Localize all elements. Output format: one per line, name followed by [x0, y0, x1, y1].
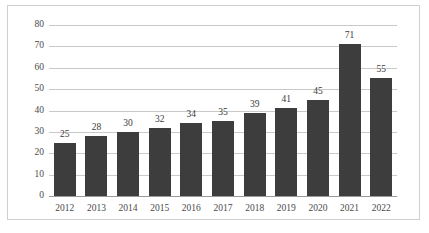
y-axis-tick-label: 50 — [22, 84, 44, 94]
x-axis-tick-label: 2017 — [213, 204, 232, 214]
bar-value-label: 28 — [92, 123, 102, 133]
bar — [339, 44, 361, 196]
bar-value-label: 55 — [376, 65, 386, 75]
bar-value-label: 34 — [187, 110, 197, 120]
bar-group: 352017 — [207, 6, 239, 221]
bar-group: 712021 — [334, 6, 366, 221]
bar-value-label: 25 — [60, 130, 70, 140]
x-axis-tick-label: 2013 — [87, 204, 106, 214]
y-axis-tick-label: 30 — [22, 127, 44, 137]
bar-series: 2520122820133020143220153420163520173920… — [49, 6, 397, 221]
bar — [117, 132, 139, 196]
bar-value-label: 71 — [345, 31, 355, 41]
bar — [275, 108, 297, 196]
x-axis-tick-label: 2015 — [150, 204, 169, 214]
bar-group: 302014 — [112, 6, 144, 221]
bar-group: 282013 — [81, 6, 113, 221]
y-axis-tick-label: 70 — [22, 42, 44, 52]
x-axis-tick-label: 2016 — [182, 204, 201, 214]
bar-value-label: 32 — [155, 115, 165, 125]
x-axis-tick-label: 2020 — [308, 204, 327, 214]
chart-frame: 01020304050607080 2520122820133020143220… — [7, 5, 420, 220]
y-axis-tick-label: 0 — [22, 191, 44, 201]
y-axis-tick-label: 10 — [22, 170, 44, 180]
x-axis-tick-label: 2021 — [340, 204, 359, 214]
bar-group: 412019 — [270, 6, 302, 221]
bar — [180, 123, 202, 196]
y-axis-tick-label: 80 — [22, 20, 44, 30]
x-axis-tick-label: 2022 — [372, 204, 391, 214]
bar-group: 252012 — [49, 6, 81, 221]
bar-value-label: 45 — [313, 87, 323, 97]
bar — [307, 100, 329, 196]
bar-chart: 01020304050607080 2520122820133020143220… — [8, 6, 421, 221]
bar-group: 552022 — [365, 6, 397, 221]
bar-group: 392018 — [239, 6, 271, 221]
bar-group: 322015 — [144, 6, 176, 221]
bar — [54, 143, 76, 196]
x-axis-tick-label: 2019 — [277, 204, 296, 214]
y-axis-labels: 01020304050607080 — [22, 6, 44, 221]
bar-value-label: 35 — [218, 108, 228, 118]
bar — [149, 128, 171, 196]
y-axis-tick-label: 60 — [22, 63, 44, 73]
bar — [370, 78, 392, 196]
bar — [85, 136, 107, 196]
bar — [212, 121, 234, 196]
x-axis-tick-label: 2014 — [119, 204, 138, 214]
y-axis-tick-label: 20 — [22, 149, 44, 159]
y-axis-tick-label: 40 — [22, 106, 44, 116]
bar-value-label: 41 — [282, 95, 292, 105]
bar-value-label: 39 — [250, 100, 260, 110]
bar-group: 342016 — [176, 6, 208, 221]
bar-value-label: 30 — [123, 119, 133, 129]
x-axis-tick-label: 2012 — [55, 204, 74, 214]
x-axis-tick-label: 2018 — [245, 204, 264, 214]
bar — [244, 113, 266, 196]
bar-group: 452020 — [302, 6, 334, 221]
